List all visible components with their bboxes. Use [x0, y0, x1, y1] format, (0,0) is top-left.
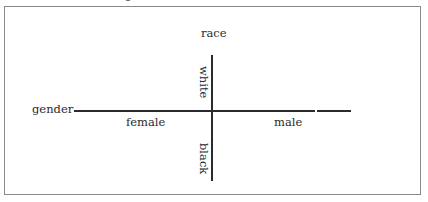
male-label: male — [274, 117, 302, 129]
female-label: female — [126, 117, 165, 129]
cropped-text-fragment — [126, 0, 130, 1]
race-axis-line — [211, 55, 213, 181]
gender-axis-line — [74, 110, 315, 112]
black-label: black — [198, 143, 210, 174]
race-axis-title: race — [201, 28, 227, 40]
gender-axis-title: gender — [32, 104, 73, 116]
gender-axis-line-extension — [317, 110, 351, 112]
white-label: white — [198, 66, 210, 98]
